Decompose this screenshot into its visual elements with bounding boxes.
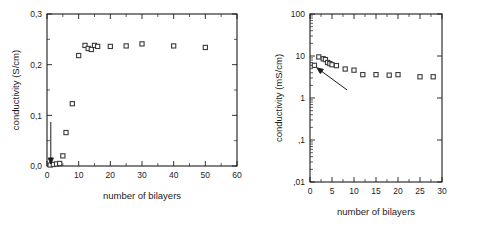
y-tick-label: 0,1 — [30, 111, 42, 121]
data-point-marker — [77, 53, 81, 57]
data-point-marker — [70, 102, 74, 106]
x-tick-label: 0 — [45, 170, 50, 180]
x-tick-label: 40 — [169, 170, 179, 180]
x-tick-label: 30 — [437, 186, 447, 196]
data-point-marker — [374, 73, 378, 77]
data-point-marker — [172, 44, 176, 48]
data-point-marker — [396, 73, 400, 77]
data-point-marker — [108, 44, 112, 48]
x-axis-title: number of bilayers — [103, 190, 181, 201]
y-axis-title: conductivity (S/cm) — [10, 50, 21, 130]
y-axis-title: conductivity (mS/cm) — [273, 54, 284, 142]
data-point-marker — [96, 44, 100, 48]
y-tick-label: ,1 — [298, 135, 305, 145]
y-tick-label: 0,0 — [30, 161, 42, 171]
y-tick-label: ,01 — [293, 177, 305, 187]
x-tick-label: 30 — [137, 170, 147, 180]
arrow-head — [317, 68, 323, 74]
chart-left-canvas: 01020304050600,00,10,20,3number of bilay… — [0, 0, 252, 233]
x-tick-label: 25 — [415, 186, 425, 196]
y-tick-label: 100 — [291, 9, 305, 19]
x-tick-label: 10 — [349, 186, 359, 196]
x-tick-label: 20 — [106, 170, 116, 180]
data-point-marker — [58, 161, 62, 165]
y-tick-label: 1 — [300, 93, 305, 103]
y-tick-label: 10 — [296, 51, 306, 61]
x-tick-label: 0 — [308, 186, 313, 196]
data-point-marker — [361, 73, 365, 77]
plot-frame — [47, 14, 237, 166]
x-tick-label: 20 — [393, 186, 403, 196]
data-point-marker — [203, 45, 207, 49]
data-point-marker — [431, 75, 435, 79]
data-point-marker — [418, 75, 422, 79]
data-point-marker — [61, 154, 65, 158]
data-point-marker — [330, 63, 334, 67]
chart-right-canvas: 051015202530,01,1110100number of bilayer… — [252, 0, 489, 233]
data-point-marker — [343, 67, 347, 71]
data-point-marker — [124, 44, 128, 48]
chart-left-linear: 01020304050600,00,10,20,3number of bilay… — [0, 0, 252, 233]
x-tick-label: 60 — [232, 170, 242, 180]
x-tick-label: 50 — [201, 170, 211, 180]
y-tick-label: 0,3 — [30, 9, 42, 19]
data-point-marker — [334, 64, 338, 68]
data-point-marker — [387, 73, 391, 77]
data-point-marker — [352, 68, 356, 72]
data-point-marker — [64, 130, 68, 134]
y-tick-label: 0,2 — [30, 60, 42, 70]
chart-right-log: 051015202530,01,1110100number of bilayer… — [252, 0, 489, 233]
figure-sheet: 01020304050600,00,10,20,3number of bilay… — [0, 0, 489, 233]
annotation-arrow — [317, 68, 347, 90]
plot-frame — [310, 14, 442, 182]
x-tick-label: 10 — [74, 170, 84, 180]
x-tick-label: 5 — [330, 186, 335, 196]
data-point-marker — [317, 55, 321, 59]
annotation-arrow — [48, 122, 53, 164]
x-tick-label: 15 — [371, 186, 381, 196]
data-point-marker — [140, 42, 144, 46]
x-axis-title: number of bilayers — [337, 206, 415, 217]
data-point-marker — [312, 63, 316, 67]
